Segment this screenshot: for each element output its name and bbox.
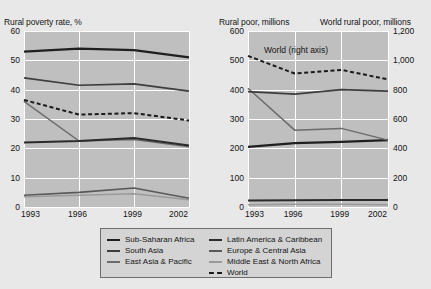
left-y-tick-label: 50 <box>0 55 20 65</box>
left-y-tick-label: 10 <box>0 173 20 183</box>
left-y-tick-label: 0 <box>0 202 20 212</box>
legend-swatch-middle-east-north-africa <box>209 261 222 263</box>
left-x-tick-label: 2002 <box>169 209 188 219</box>
left-x-tick-label: 1999 <box>123 209 142 219</box>
right-y-tick-label-right: 600 <box>393 114 407 124</box>
figure-root: Rural poverty rate, % 6050403020100 1993… <box>0 0 431 289</box>
right-x-tick-label: 1993 <box>245 209 264 219</box>
right-y-tick-label-right: 200 <box>393 173 407 183</box>
legend-swatch-world <box>209 272 222 274</box>
legend-label-south-asia: South Asia <box>125 246 163 255</box>
world-right-axis-annotation: World (right axis) <box>264 45 328 55</box>
right-y-tick-label-left: 0 <box>215 202 244 212</box>
right-y-tick-label-left: 600 <box>215 26 244 36</box>
legend-swatch-east-asia-pacific <box>107 261 120 263</box>
right-x-tick-label: 1999 <box>330 209 349 219</box>
legend-swatch-south-asia <box>107 250 120 252</box>
right-y-tick-label-left: 100 <box>215 173 244 183</box>
left-chart-panel: Rural poverty rate, % 6050403020100 1993… <box>0 0 215 225</box>
left-y-tick-label: 60 <box>0 26 20 36</box>
left-y-tick-label: 20 <box>0 143 20 153</box>
legend-label-latin-america-caribbean: Latin America & Caribbean <box>227 235 322 244</box>
right-x-tick-label: 2002 <box>368 209 387 219</box>
legend-label-east-asia-pacific: East Asia & Pacific <box>125 257 192 266</box>
right-y-tick-label-right: 800 <box>393 85 407 95</box>
right-y-tick-label-left: 200 <box>215 143 244 153</box>
legend-swatch-sub-saharan-africa <box>107 239 120 241</box>
chart-legend: Sub-Saharan AfricaSouth AsiaEast Asia & … <box>100 228 332 278</box>
right-y-tick-label-right: 400 <box>393 143 407 153</box>
right-y-tick-label-right: 0 <box>393 202 398 212</box>
left-y-tick-label: 30 <box>0 114 20 124</box>
right-x-tick-label: 1996 <box>284 209 303 219</box>
legend-swatch-latin-america-caribbean <box>209 239 222 241</box>
left-y-tick-label: 40 <box>0 85 20 95</box>
left-chart-lines <box>0 0 215 225</box>
legend-label-middle-east-north-africa: Middle East & North Africa <box>227 257 320 266</box>
legend-label-world: World <box>227 268 248 277</box>
legend-label-europe-central-asia: Europe & Central Asia <box>227 246 306 255</box>
right-y-tick-label-left: 300 <box>215 114 244 124</box>
legend-swatch-europe-central-asia <box>209 250 222 252</box>
right-y-tick-label-left: 500 <box>215 55 244 65</box>
right-chart-panel: Rural poor, millions World rural poor, m… <box>215 0 431 225</box>
right-y-tick-label-left: 400 <box>215 85 244 95</box>
left-x-tick-label: 1993 <box>21 209 40 219</box>
right-y-tick-label-right: 1,200 <box>393 26 414 36</box>
left-x-tick-label: 1996 <box>68 209 87 219</box>
legend-label-sub-saharan-africa: Sub-Saharan Africa <box>125 235 194 244</box>
right-y-tick-label-right: 1,000 <box>393 55 414 65</box>
